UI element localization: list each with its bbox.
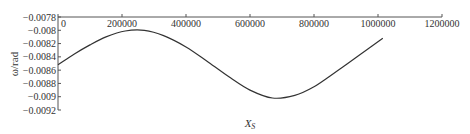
series-line — [58, 30, 383, 98]
x-tick-label: 400000 — [171, 18, 201, 29]
y-tick-label: −0.0086 — [23, 65, 56, 76]
x-tick-label: 1000000 — [361, 18, 396, 29]
x-tick-label: 200000 — [107, 18, 137, 29]
x-axis-label: XS — [244, 117, 256, 131]
y-tick-label: −0.0088 — [23, 78, 56, 89]
x-tick-label: 800000 — [299, 18, 329, 29]
y-tick-label: −0.009 — [28, 91, 56, 102]
y-tick-label: −0.0078 — [23, 12, 56, 23]
y-tick-label: −0.0082 — [23, 38, 56, 49]
x-tick-label: 1200000 — [425, 18, 460, 29]
y-axis-label: ω/rad — [8, 51, 20, 76]
x-axis: 020000040000060000080000010000001200000 — [58, 14, 460, 29]
y-tick-label: −0.0092 — [23, 105, 56, 116]
x-tick-label: 0 — [61, 18, 66, 29]
line-chart: −0.0078−0.008−0.0082−0.0084−0.0086−0.008… — [0, 0, 470, 134]
data-series — [58, 30, 383, 98]
y-tick-label: −0.0084 — [23, 51, 56, 62]
y-tick-label: −0.008 — [28, 25, 56, 36]
y-axis: −0.0078−0.008−0.0082−0.0084−0.0086−0.008… — [23, 12, 61, 116]
x-tick-label: 600000 — [235, 18, 265, 29]
